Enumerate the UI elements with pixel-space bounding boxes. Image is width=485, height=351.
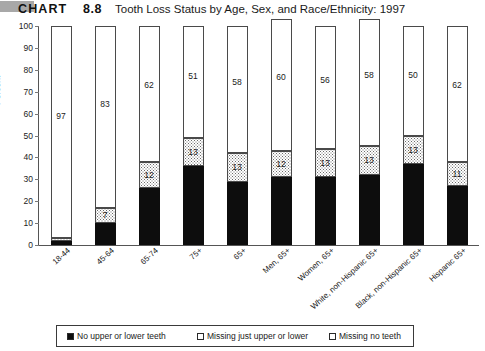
x-axis-tick-label: Women, 65+ xyxy=(296,246,336,283)
bar-segment-dotted[interactable]: 13 xyxy=(403,136,424,164)
bar-segment-white[interactable]: 62 xyxy=(139,26,160,162)
bar-segment-white[interactable]: 60 xyxy=(271,19,292,150)
x-axis-label-women-65-: Women, 65+ xyxy=(296,246,336,283)
y-axis-tick-label: 60 xyxy=(24,109,33,119)
bar-segment-white[interactable]: 62 xyxy=(447,26,468,162)
y-axis-tick-label: 90 xyxy=(24,43,33,53)
bar-segment-white[interactable]: 83 xyxy=(95,26,116,208)
y-axis-tick-label: 50 xyxy=(24,131,33,141)
bar-segment-black[interactable] xyxy=(227,182,248,246)
bar-65-74[interactable]: 1262 xyxy=(139,26,160,245)
x-axis-label-18-44: 18-44 xyxy=(51,246,72,266)
bar-value-label: 60 xyxy=(276,73,285,82)
y-axis-tick xyxy=(35,26,39,27)
bar-value-label: 11 xyxy=(452,170,463,179)
legend-item-no-teeth: No upper or lower teeth xyxy=(67,331,166,341)
plot-area: 9778312621351135812601356135813501162 xyxy=(38,26,479,246)
x-axis-label-hispanic-65-: Hispanic 65+ xyxy=(427,246,468,284)
chart-legend: No upper or lower teeth Missing just upp… xyxy=(56,325,414,347)
y-axis-tick-label: 30 xyxy=(24,174,33,184)
legend-swatch-dotted-icon xyxy=(197,333,204,340)
y-axis-tick xyxy=(35,92,39,93)
x-axis-label-45-64: 45-64 xyxy=(95,246,116,266)
bar-segment-dotted[interactable] xyxy=(51,238,72,240)
legend-label: No upper or lower teeth xyxy=(77,331,166,341)
bar-segment-black[interactable] xyxy=(271,177,292,245)
y-axis-tick xyxy=(35,70,39,71)
bar-segment-black[interactable] xyxy=(403,164,424,245)
legend-swatch-white-icon xyxy=(329,333,336,340)
bar-women-65-[interactable]: 1356 xyxy=(315,26,336,245)
bar-segment-black[interactable] xyxy=(183,166,204,245)
bar-45-64[interactable]: 783 xyxy=(95,26,116,245)
bar-18-44[interactable]: 97 xyxy=(51,26,72,245)
chart-number: 8.8 xyxy=(83,2,102,16)
bar-segment-white[interactable]: 97 xyxy=(51,26,72,238)
bar-segment-dotted[interactable]: 12 xyxy=(271,151,292,177)
bar-value-label: 13 xyxy=(319,159,330,168)
bar-value-label: 97 xyxy=(56,112,65,121)
x-axis-tick-label: 45-64 xyxy=(95,246,116,266)
bar-value-label: 58 xyxy=(364,71,373,80)
bar-segment-black[interactable] xyxy=(51,241,72,245)
y-axis-tick-label: 80 xyxy=(24,65,33,75)
bar-value-label: 13 xyxy=(231,163,242,172)
bar-segment-dotted[interactable]: 7 xyxy=(95,208,116,223)
x-axis-tick-label: 75+ xyxy=(188,246,204,262)
bar-value-label: 12 xyxy=(275,160,286,169)
y-axis-tick xyxy=(35,114,39,115)
bar-white-non-hispanic-65-[interactable]: 1358 xyxy=(359,26,380,245)
y-axis-tick xyxy=(35,179,39,180)
bar-men-65-[interactable]: 1260 xyxy=(271,26,292,245)
x-axis-label-65-74: 65-74 xyxy=(139,246,160,266)
legend-item-missing-some: Missing just upper or lower xyxy=(197,331,308,341)
bar-segment-white[interactable]: 58 xyxy=(359,19,380,146)
y-axis-tick-label: 0 xyxy=(28,240,33,250)
legend-label: Missing no teeth xyxy=(339,331,401,341)
bar-value-label: 7 xyxy=(102,211,109,220)
bar-segment-white[interactable]: 56 xyxy=(315,26,336,149)
bar-segment-dotted[interactable]: 13 xyxy=(315,149,336,177)
chart-label: CHART xyxy=(18,2,67,16)
bar-value-label: 50 xyxy=(408,71,417,80)
bar-hispanic-65-[interactable]: 1162 xyxy=(447,26,468,245)
y-axis-tick-label: 20 xyxy=(24,196,33,206)
bar-value-label: 51 xyxy=(188,72,197,81)
bar-value-label: 12 xyxy=(143,171,154,180)
bar-75-[interactable]: 1351 xyxy=(183,26,204,245)
y-axis-tick xyxy=(35,201,39,202)
x-axis-tick-label: 65-74 xyxy=(139,246,160,266)
y-axis-tick xyxy=(35,223,39,224)
x-axis-tick-label: Hispanic 65+ xyxy=(427,246,468,284)
x-axis-label-75-: 75+ xyxy=(188,246,204,262)
bar-value-label: 13 xyxy=(407,146,418,155)
legend-item-missing-none: Missing no teeth xyxy=(329,331,401,341)
bar-segment-dotted[interactable]: 13 xyxy=(227,153,248,181)
x-axis-tick-label: 65+ xyxy=(232,246,248,262)
y-axis-tick-label: 70 xyxy=(24,87,33,97)
bar-65-[interactable]: 1358 xyxy=(227,26,248,245)
y-axis-tick xyxy=(35,48,39,49)
y-axis-tick-label: 40 xyxy=(24,152,33,162)
bar-segment-black[interactable] xyxy=(359,175,380,245)
bar-segment-white[interactable]: 50 xyxy=(403,26,424,136)
bar-segment-black[interactable] xyxy=(95,223,116,245)
x-axis-tick-labels: 18-4445-6465-7475+65+Men, 65+Women, 65+W… xyxy=(38,246,478,326)
x-axis-tick-label: Men, 65+ xyxy=(261,246,292,275)
bar-segment-white[interactable]: 51 xyxy=(183,26,204,138)
bar-segment-dotted[interactable]: 11 xyxy=(447,162,468,186)
bar-segment-dotted[interactable]: 13 xyxy=(183,138,204,166)
bar-segment-black[interactable] xyxy=(315,177,336,245)
bar-value-label: 58 xyxy=(232,78,241,87)
bar-segment-dotted[interactable]: 13 xyxy=(359,146,380,174)
bar-segment-black[interactable] xyxy=(447,186,468,245)
bar-segment-black[interactable] xyxy=(139,188,160,245)
bar-segment-white[interactable]: 58 xyxy=(227,26,248,153)
bar-segment-dotted[interactable]: 12 xyxy=(139,162,160,188)
bar-black-non-hispanic-65-[interactable]: 1350 xyxy=(403,26,424,245)
bar-value-label: 13 xyxy=(187,148,198,157)
legend-swatch-black-icon xyxy=(67,333,74,340)
bar-value-label: 62 xyxy=(452,81,461,90)
page-title: Tooth Loss Status by Age, Sex, and Race/… xyxy=(115,3,405,15)
chart-header: CHART 8.8 Tooth Loss Status by Age, Sex,… xyxy=(0,0,485,20)
